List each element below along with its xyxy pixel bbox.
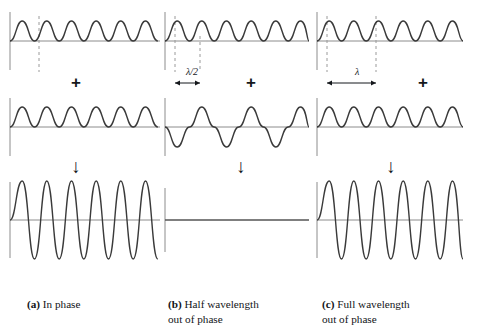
panel-c-down-arrow: ↓ xyxy=(311,157,471,176)
panel-in-phase: + ↓ xyxy=(2,0,162,275)
panel-a-plus-symbol: + xyxy=(0,74,156,91)
caption-tag-b: (b) xyxy=(168,298,182,310)
panel-a-input-wave-1 xyxy=(2,10,162,72)
panel-a-input-wave-2 xyxy=(2,96,162,158)
caption-panel-c: (c) Full wavelength out of phase xyxy=(322,283,472,326)
panel-c-input-wave-2 xyxy=(307,96,467,158)
panel-c-resultant-wave xyxy=(307,180,467,260)
panel-a-resultant-wave xyxy=(2,180,162,260)
panel-a-down-arrow: ↓ xyxy=(0,157,156,176)
panel-b-input-wave-1 xyxy=(157,10,317,72)
caption-tag-c: (c) xyxy=(322,298,334,310)
panel-b-input-wave-2 xyxy=(157,96,317,158)
panel-c-plus-symbol: + xyxy=(343,74,481,91)
caption-panel-b: (b) Half wavelength out of phase xyxy=(168,283,318,326)
panel-c-input-wave-1 xyxy=(307,10,467,72)
caption-tag-a: (a) xyxy=(27,298,40,310)
panel-half-wavelength-out-of-phase: λ/2 + ↓ xyxy=(157,0,317,275)
caption-body-a: In phase xyxy=(43,298,81,310)
panel-full-wavelength-out-of-phase: λ + ↓ xyxy=(307,0,467,275)
panel-b-resultant-wave-flat xyxy=(157,180,317,260)
caption-panel-a: (a) In phase xyxy=(27,283,177,312)
panel-b-down-arrow: ↓ xyxy=(161,157,321,176)
